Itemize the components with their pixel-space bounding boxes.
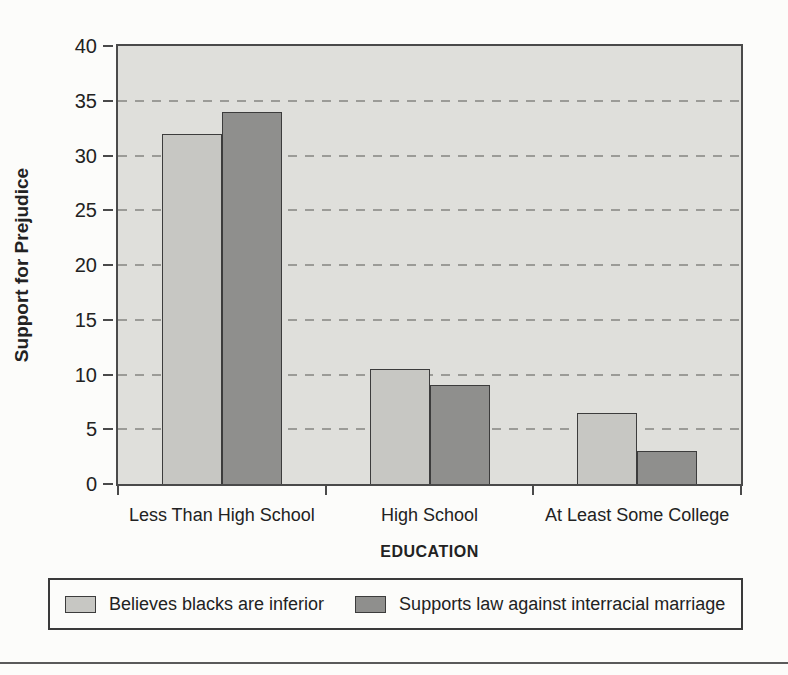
x-axis-tick-1: [325, 486, 327, 495]
bar-dark-cat3: [637, 451, 697, 484]
plot-area: [116, 44, 743, 486]
y-axis-tick-label-40: 40: [39, 35, 97, 57]
y-axis-tick-label-30: 30: [39, 145, 97, 167]
bar-light-cat2: [370, 369, 430, 484]
x-category-label-2: High School: [310, 504, 550, 526]
legend-swatch-light: [65, 596, 96, 613]
y-axis-title: Support for Prejudice: [11, 165, 33, 365]
y-axis-tick-5: [103, 428, 113, 430]
bar-dark-cat1: [222, 112, 282, 484]
y-axis-tick-10: [103, 374, 113, 376]
legend-item-1: Believes blacks are inferior: [65, 594, 324, 615]
y-axis-tick-label-25: 25: [39, 199, 97, 221]
y-axis-tick-label-10: 10: [39, 364, 97, 386]
y-axis-tick-label-20: 20: [39, 254, 97, 276]
legend-label-2: Supports law against interracial marriag…: [399, 594, 725, 615]
bar-dark-cat2: [430, 385, 490, 484]
x-category-label-1: Less Than High School: [102, 504, 342, 526]
bottom-rule: [0, 662, 788, 664]
y-axis-tick-35: [103, 100, 113, 102]
y-axis-tick-15: [103, 319, 113, 321]
x-category-label-3: At Least Some College: [517, 504, 757, 526]
y-axis-tick-20: [103, 264, 113, 266]
y-axis-tick-30: [103, 155, 113, 157]
legend: Believes blacks are inferiorSupports law…: [48, 578, 743, 630]
y-axis-tick-25: [103, 209, 113, 211]
legend-item-2: Supports law against interracial marriag…: [355, 594, 725, 615]
legend-label-1: Believes blacks are inferior: [109, 594, 324, 615]
legend-swatch-dark: [355, 596, 386, 613]
x-axis-tick-2: [532, 486, 534, 495]
y-axis-tick-label-0: 0: [39, 473, 97, 495]
x-axis-tick-0: [117, 486, 119, 495]
bar-chart-figure: Support for Prejudice EDUCATION Believes…: [0, 0, 788, 675]
bar-light-cat1: [162, 134, 222, 484]
x-axis-title: EDUCATION: [116, 543, 743, 561]
y-axis-tick-0: [103, 483, 113, 485]
y-axis-tick-40: [103, 45, 113, 47]
x-axis-tick-3: [740, 486, 742, 495]
grid-line-35: [118, 100, 741, 102]
y-axis-tick-label-35: 35: [39, 90, 97, 112]
y-axis-tick-label-15: 15: [39, 309, 97, 331]
y-axis-tick-label-5: 5: [39, 418, 97, 440]
bar-light-cat3: [577, 413, 637, 484]
